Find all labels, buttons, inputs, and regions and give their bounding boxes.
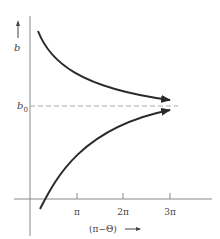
right-arrow-icon [125,227,141,231]
b0-label: b0 [17,100,28,114]
tick-label-pi: π [74,207,80,217]
tick-label-2pi: 2π [117,207,129,217]
diagram-canvas: π 2π 3π (π−Θ) b b0 [0,0,220,239]
up-arrow-icon [16,20,20,38]
y-axis-label: b [14,42,20,53]
tick-label-3pi: 3π [164,207,176,217]
x-axis-label: (π−Θ) [89,224,117,234]
lower-curve [40,110,170,209]
upper-curve [38,31,170,100]
